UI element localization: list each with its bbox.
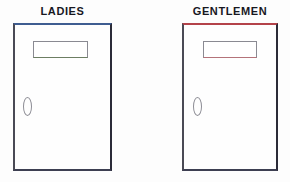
- door-label-gentlemen: GENTLEMEN: [182, 5, 278, 18]
- door-knob-icon-gentlemen[interactable]: [193, 97, 202, 116]
- door-sign-gentlemen: [203, 41, 257, 58]
- door-label-ladies: LADIES: [13, 5, 112, 18]
- door-sign-ladies: [33, 41, 88, 58]
- door-panel-ladies[interactable]: [13, 23, 112, 171]
- door-panel-gentlemen[interactable]: [182, 23, 278, 171]
- door-knob-icon-ladies[interactable]: [23, 97, 32, 116]
- restroom-doors-diagram: LADIES GENTLEMEN: [0, 0, 290, 182]
